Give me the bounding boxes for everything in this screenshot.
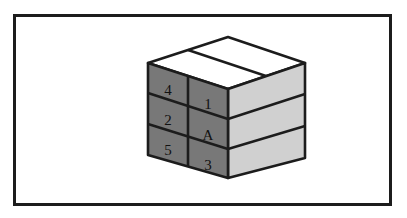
screenshot-root: 4 1 2 A 5 3: [0, 0, 407, 218]
cell-label-r2c1: 2: [164, 112, 172, 128]
cell-label-r1c1: 4: [164, 82, 172, 98]
isometric-block-figure: 4 1 2 A 5 3: [0, 0, 407, 218]
cell-label-r3c1: 5: [164, 142, 172, 158]
cell-label-r3c2: 3: [204, 157, 212, 173]
cell-label-r2c2: A: [203, 127, 214, 143]
cell-label-r1c2: 1: [204, 96, 212, 112]
block-diagram-svg: 4 1 2 A 5 3: [0, 0, 407, 218]
